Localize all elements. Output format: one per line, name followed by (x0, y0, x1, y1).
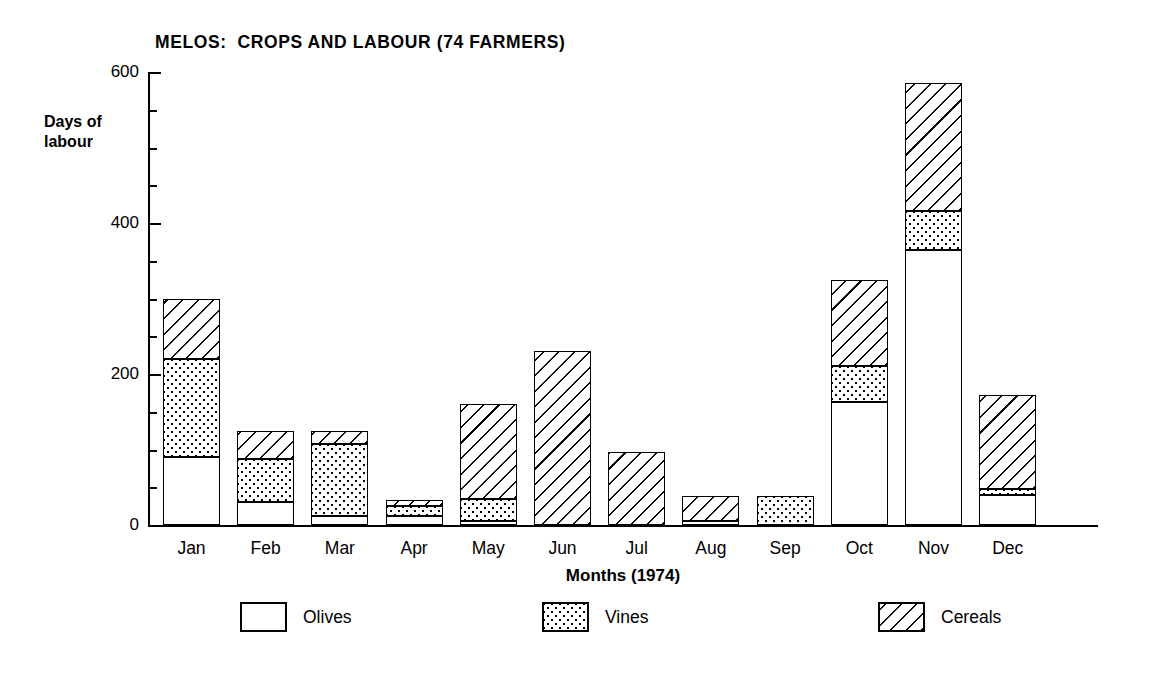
x-axis-line (148, 525, 1098, 527)
chart-legend: OlivesVinesCereals (240, 602, 900, 642)
x-tick-label-may: May (460, 538, 517, 559)
y-axis-label: Days of labour (44, 112, 102, 152)
bar-stack (534, 351, 591, 525)
bar-segment-vines (386, 506, 443, 516)
legend-swatch-vines (542, 602, 589, 632)
y-tick-label: 200 (111, 364, 139, 384)
legend-label-cereals: Cereals (941, 607, 1001, 628)
y-tick-label: 600 (111, 62, 139, 82)
legend-swatch-cereals (878, 602, 925, 632)
x-tick-label-apr: Apr (386, 538, 443, 559)
bar-segment-olives (460, 521, 517, 525)
bar-stack (608, 452, 665, 525)
legend-label-olives: Olives (303, 607, 352, 628)
x-tick-label-sep: Sep (757, 538, 814, 559)
x-tick-label-dec: Dec (979, 538, 1036, 559)
bar-stack (237, 431, 294, 525)
x-tick-label-jun: Jun (534, 538, 591, 559)
bar-segment-cereals (237, 431, 294, 459)
bar-segment-cereals (831, 280, 888, 367)
chart-title: MELOS: CROPS AND LABOUR (74 FARMERS) (155, 32, 565, 53)
bar-stack (905, 83, 962, 525)
y-tick-label: 0 (130, 515, 139, 535)
x-tick-label-oct: Oct (831, 538, 888, 559)
bar-stack (831, 280, 888, 525)
bar-stack (386, 500, 443, 525)
bar-segment-vines (237, 459, 294, 503)
bar-segment-olives (386, 516, 443, 525)
bar-segment-cereals (311, 431, 368, 445)
legend-swatch-olives (240, 602, 287, 632)
bar-series-container (148, 72, 1098, 525)
chart-figure: MELOS: CROPS AND LABOUR (74 FARMERS) Day… (0, 0, 1154, 676)
x-tick-label-jan: Jan (163, 538, 220, 559)
legend-item-olives[interactable]: Olives (240, 602, 352, 632)
bar-stack (682, 496, 739, 525)
x-tick-label-nov: Nov (905, 538, 962, 559)
plot-area: 0200400600 JanFebMarAprMayJunJulAugSepOc… (148, 72, 1098, 525)
bar-segment-olives (237, 502, 294, 525)
x-axis-label: Months (1974) (148, 566, 1098, 586)
bar-stack (979, 395, 1036, 525)
y-tick-major: 0 (148, 525, 161, 527)
x-tick-label-aug: Aug (682, 538, 739, 559)
bar-stack (757, 496, 814, 525)
bar-stack (311, 431, 368, 525)
x-tick-label-jul: Jul (608, 538, 665, 559)
x-tick-label-mar: Mar (311, 538, 368, 559)
bar-segment-olives (311, 516, 368, 525)
bar-stack (460, 404, 517, 525)
bar-segment-vines (831, 366, 888, 401)
bar-segment-vines (905, 211, 962, 250)
bar-segment-cereals (979, 395, 1036, 489)
bar-segment-olives (682, 521, 739, 525)
bar-segment-vines (979, 489, 1036, 495)
bar-segment-olives (831, 402, 888, 525)
bar-segment-cereals (386, 500, 443, 506)
bar-segment-cereals (608, 452, 665, 525)
bar-segment-cereals (460, 404, 517, 498)
bar-segment-olives (905, 250, 962, 525)
bar-segment-vines (460, 499, 517, 522)
y-tick-label: 400 (111, 213, 139, 233)
bar-segment-olives (979, 495, 1036, 525)
legend-item-cereals[interactable]: Cereals (878, 602, 1001, 632)
bar-segment-cereals (534, 351, 591, 525)
bar-segment-cereals (163, 299, 220, 359)
bar-segment-vines (757, 496, 814, 525)
bar-stack (163, 299, 220, 526)
legend-label-vines: Vines (605, 607, 648, 628)
legend-item-vines[interactable]: Vines (542, 602, 648, 632)
bar-segment-cereals (682, 496, 739, 521)
bar-segment-olives (163, 457, 220, 525)
bar-segment-cereals (905, 83, 962, 211)
bar-segment-vines (311, 444, 368, 516)
bar-segment-vines (163, 359, 220, 457)
x-tick-label-feb: Feb (237, 538, 294, 559)
